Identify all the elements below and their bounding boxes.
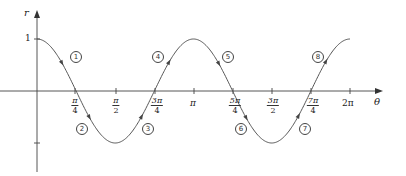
x-tick-label-pi-over-4: π 4 — [71, 97, 78, 115]
chart-plot — [0, 0, 406, 176]
x-tick-label-pi: π — [190, 99, 196, 108]
segment-label-3: 3 — [142, 123, 154, 135]
x-tick-label-2pi: 2π — [342, 99, 354, 108]
x-tick-label-3pi-over-4: 3π 4 — [151, 97, 163, 115]
y-axis-label: r — [24, 8, 29, 18]
y-axis-arrow-icon — [34, 10, 40, 18]
segment-label-4: 4 — [152, 51, 164, 63]
x-axis-arrow-icon — [375, 88, 383, 94]
segment-label-5: 5 — [222, 51, 234, 63]
y-tick-label-1: 1 — [25, 34, 31, 43]
x-tick-label-3pi-over-2: 3π 2 — [267, 97, 279, 115]
segment-label-8: 8 — [312, 51, 324, 63]
x-axis-label: θ — [374, 97, 380, 107]
segment-label-6: 6 — [235, 123, 247, 135]
x-tick-label-pi-over-2: π 2 — [112, 97, 119, 115]
x-tick-label-7pi-over-4: 7π 4 — [307, 97, 319, 115]
x-tick-label-5pi-over-4: 5π 4 — [229, 97, 241, 115]
segment-label-7: 7 — [299, 123, 311, 135]
segment-label-2: 2 — [76, 123, 88, 135]
segment-label-1: 1 — [70, 51, 82, 63]
